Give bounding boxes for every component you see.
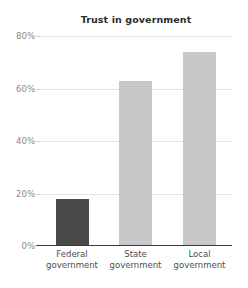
y-tick-mark xyxy=(36,194,40,195)
bar-federal-government[interactable] xyxy=(56,199,89,246)
plot-area: 0%20%40%60%80% xyxy=(40,36,232,246)
zero-tick-mark xyxy=(36,245,40,246)
x-axis-line xyxy=(40,245,232,246)
chart-title: Trust in government xyxy=(40,14,232,25)
y-axis-tick-label: 60% xyxy=(16,84,35,94)
category-label-line: government xyxy=(155,260,245,271)
bar-chart: Trust in government 0%20%40%60%80% Feder… xyxy=(0,0,248,288)
y-tick-mark xyxy=(36,89,40,90)
bar-local-government[interactable] xyxy=(183,52,216,246)
y-axis-tick-label: 40% xyxy=(16,136,35,146)
y-tick-mark xyxy=(36,36,40,37)
bar-state-government[interactable] xyxy=(119,81,152,246)
gridline-80% xyxy=(40,36,232,37)
y-tick-mark xyxy=(36,141,40,142)
category-label-local-government: Localgovernment xyxy=(155,249,245,271)
category-label-line: Local xyxy=(155,249,245,260)
y-axis-tick-label: 20% xyxy=(16,189,35,199)
y-axis-tick-label: 80% xyxy=(16,31,35,41)
